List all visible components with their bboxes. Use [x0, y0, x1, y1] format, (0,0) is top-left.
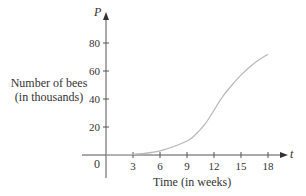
x-axis-arrow-icon	[280, 152, 288, 158]
x-tick-label: 3	[130, 160, 136, 172]
x-axis-title: Time (in weeks)	[153, 176, 231, 189]
y-axis-arrow-icon	[103, 12, 109, 20]
y-axis-symbol: P	[94, 6, 101, 19]
x-tick-label: 15	[236, 160, 247, 172]
x-tick-label: 12	[209, 160, 220, 172]
y-axis-title: Number of bees (in thousands)	[4, 76, 94, 104]
y-tick-label: 60	[89, 65, 100, 77]
y-tick-label: 20	[89, 121, 100, 133]
population-curve	[106, 54, 268, 155]
origin-label: 0	[94, 158, 100, 171]
y-tick-label: 40	[89, 93, 100, 105]
x-tick-label: 18	[263, 160, 274, 172]
x-axis-symbol: t	[290, 148, 293, 161]
x-tick-label: 9	[184, 160, 190, 172]
x-tick-label: 6	[157, 160, 163, 172]
y-axis-title-line2: (in thousands)	[4, 90, 94, 104]
y-tick-label: 80	[89, 37, 100, 49]
y-axis-title-line1: Number of bees	[4, 76, 94, 90]
